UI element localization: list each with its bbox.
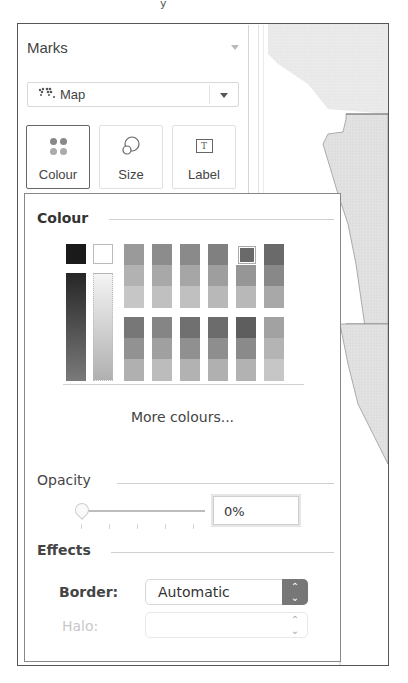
slider-tick [193, 524, 194, 529]
palette-top-4[interactable] [208, 244, 228, 308]
slider-tick [165, 524, 166, 529]
palette-top-1[interactable] [124, 244, 144, 308]
label-button[interactable]: T Label [172, 125, 236, 189]
opacity-value: 0% [224, 504, 245, 519]
up-down-chevron-icon: ⌃⌄ [282, 579, 308, 605]
opacity-slider-knob[interactable] [72, 500, 92, 520]
pane-divider-inner [263, 25, 264, 195]
palette-top-5-selected[interactable] [236, 244, 256, 308]
marks-card: Marks Map Colour Size T Label [19, 25, 249, 195]
opacity-section-title: Opacity [37, 472, 91, 488]
size-button-label: Size [100, 167, 162, 182]
dropdown-separator [209, 85, 210, 104]
slider-tick [137, 524, 138, 529]
palette-divider [63, 384, 304, 385]
colour-button[interactable]: Colour [26, 125, 90, 189]
border-label: Border: [59, 584, 118, 600]
palette-bottom-4[interactable] [208, 317, 228, 381]
label-text-icon: T [173, 136, 235, 156]
slider-tick [109, 524, 110, 529]
opacity-slider-track[interactable] [85, 510, 205, 512]
palette-top-2[interactable] [152, 244, 172, 308]
mark-type-label: Map [60, 87, 85, 102]
swatch-white[interactable] [93, 244, 113, 264]
palette-bottom-2[interactable] [152, 317, 172, 381]
colour-popup: Colour More colours... Opacity 0% Effect… [24, 193, 341, 662]
marks-title: Marks [27, 39, 68, 56]
section-divider [117, 483, 334, 484]
marks-menu-caret-icon[interactable] [231, 45, 239, 50]
chevron-down-icon[interactable] [220, 93, 228, 98]
pane-divider[interactable] [258, 25, 259, 195]
border-select[interactable]: Automatic ⌃⌄ [145, 579, 308, 605]
label-button-label: Label [173, 167, 235, 182]
colour-button-label: Colour [27, 167, 89, 182]
section-divider [109, 219, 334, 220]
halo-label: Halo: [62, 618, 98, 634]
border-value: Automatic [158, 584, 230, 600]
colour-section-title: Colour [37, 210, 88, 226]
effects-section-title: Effects [37, 542, 91, 558]
opacity-input[interactable]: 0% [211, 494, 301, 527]
slider-tick [81, 524, 82, 529]
palette-bottom-5[interactable] [236, 317, 256, 381]
palette-bottom-3[interactable] [180, 317, 200, 381]
light-ramp[interactable] [93, 273, 113, 381]
palette-bottom-6[interactable] [264, 317, 284, 381]
size-circles-icon [100, 136, 162, 156]
stray-text: y [160, 0, 167, 8]
mark-type-dropdown[interactable]: Map [27, 82, 239, 107]
section-divider [111, 552, 334, 553]
size-button[interactable]: Size [99, 125, 163, 189]
colour-dots-icon [27, 136, 89, 156]
palette-bottom-1[interactable] [124, 317, 144, 381]
palette-top-3[interactable] [180, 244, 200, 308]
swatch-black[interactable] [66, 244, 86, 264]
more-colours-button[interactable]: More colours... [25, 409, 340, 425]
gray-ramp[interactable] [66, 273, 86, 381]
map-icon [38, 87, 58, 104]
halo-select: ⌃⌄ [145, 612, 308, 638]
up-down-chevron-icon: ⌃⌄ [282, 612, 308, 638]
palette-top-6[interactable] [264, 244, 284, 308]
